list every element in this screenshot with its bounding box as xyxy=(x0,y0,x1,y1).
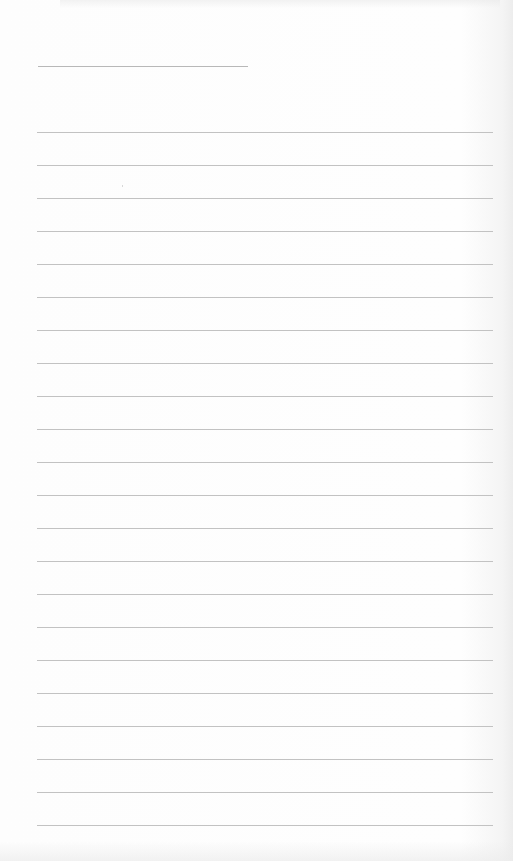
ruled-line xyxy=(37,660,493,661)
lined-paper-sheet xyxy=(0,0,513,861)
ruled-line xyxy=(37,495,493,496)
bleed-through-marks xyxy=(60,0,500,8)
ruled-line xyxy=(37,429,493,430)
ruled-line xyxy=(37,165,493,166)
ruled-line xyxy=(37,627,493,628)
ruled-line xyxy=(37,561,493,562)
ruled-line xyxy=(37,594,493,595)
ruled-line xyxy=(37,792,493,793)
ruled-line xyxy=(37,297,493,298)
ruled-line xyxy=(37,759,493,760)
ruled-line xyxy=(37,693,493,694)
ruled-line xyxy=(37,462,493,463)
ruled-line xyxy=(37,132,493,133)
paper-speck xyxy=(122,185,123,187)
ruled-line xyxy=(37,528,493,529)
ruled-line xyxy=(37,330,493,331)
bottom-edge-shadow xyxy=(0,841,513,861)
ruled-line xyxy=(37,264,493,265)
ruled-line xyxy=(37,363,493,364)
ruled-line xyxy=(37,198,493,199)
ruled-line xyxy=(37,231,493,232)
ruled-line xyxy=(37,825,493,826)
ruled-line xyxy=(37,726,493,727)
title-line xyxy=(38,66,248,67)
ruled-line xyxy=(37,396,493,397)
